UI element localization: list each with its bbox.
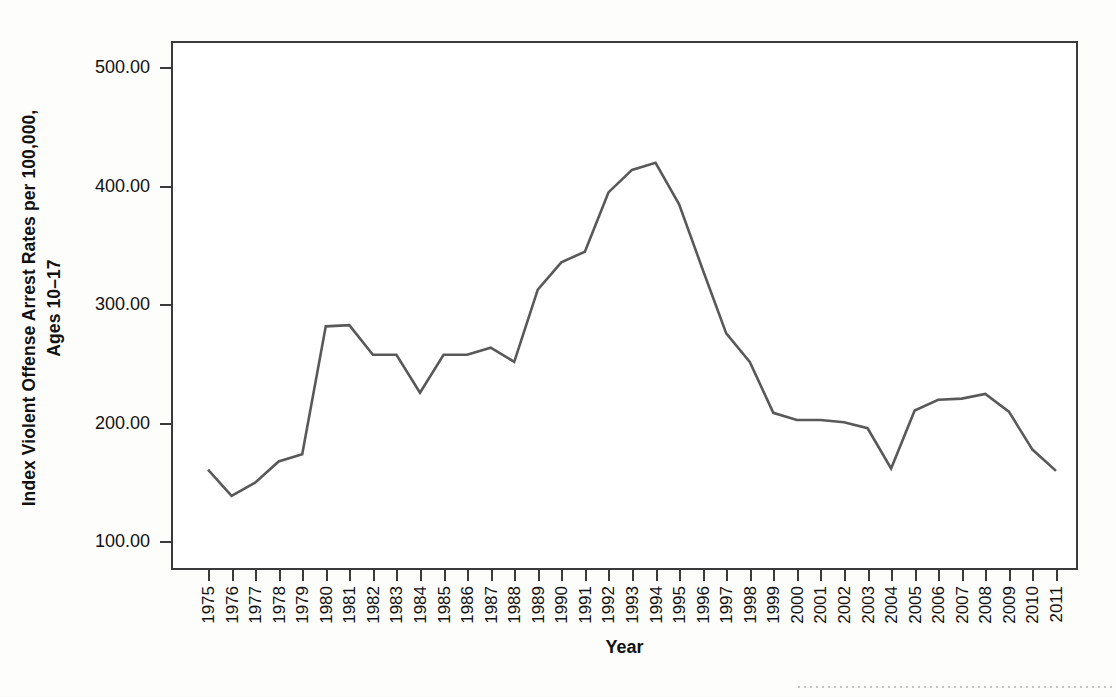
- x-axis-tick-label-text: 2011: [1048, 586, 1065, 623]
- x-axis-tick-label-text: 1985: [435, 586, 452, 624]
- x-axis-tick-label-text: 1990: [553, 586, 570, 624]
- x-axis-tick-mark: [326, 570, 328, 581]
- x-axis-tick-label-text: 1993: [624, 586, 641, 624]
- x-axis-tick-label-text: 1994: [647, 586, 664, 624]
- y-axis-tick-mark: [160, 67, 171, 69]
- x-axis-tick-mark: [538, 570, 540, 581]
- x-axis-tick-mark: [255, 570, 257, 581]
- x-axis-tick-label-text: 1978: [270, 586, 287, 624]
- y-axis-tick-label: 300.00: [95, 295, 160, 313]
- x-axis-tick-mark: [750, 570, 752, 581]
- x-axis-tick-mark: [985, 570, 987, 581]
- y-axis-title-line2: Ages 10–17: [42, 259, 67, 356]
- x-axis-tick-mark: [726, 570, 728, 581]
- x-axis-tick-label-text: 2003: [859, 586, 876, 624]
- y-axis-tick-mark: [160, 541, 171, 543]
- x-axis-tick-label-text: 2009: [1000, 586, 1017, 624]
- x-axis-tick-label-text: 1992: [600, 586, 617, 624]
- x-axis-tick-mark: [396, 570, 398, 581]
- x-axis-tick-label-text: 2001: [812, 586, 829, 624]
- x-axis-tick-label-text: 1995: [671, 586, 688, 624]
- y-axis-title: Index Violent Offense Arrest Rates per 1…: [14, 28, 70, 588]
- x-axis-tick-mark: [797, 570, 799, 581]
- x-axis-tick-mark: [703, 570, 705, 581]
- x-axis-tick-mark: [1009, 570, 1011, 581]
- x-axis-tick-mark: [302, 570, 304, 581]
- x-axis-tick-mark: [656, 570, 658, 581]
- x-axis-tick-mark: [585, 570, 587, 581]
- x-axis-title: Year: [171, 637, 1078, 658]
- x-axis-tick-label-text: 1991: [576, 586, 593, 624]
- x-axis-tick-mark: [349, 570, 351, 581]
- x-axis-tick-label-text: 2004: [883, 586, 900, 624]
- x-axis-tick-mark: [467, 570, 469, 581]
- x-axis-tick-mark: [938, 570, 940, 581]
- y-axis-tick-mark: [160, 186, 171, 188]
- x-axis-tick-label-text: 2005: [906, 586, 923, 624]
- x-axis-tick-mark: [1056, 570, 1058, 581]
- scan-artifact-dotted-line: [796, 686, 1116, 688]
- x-axis-tick-mark: [491, 570, 493, 581]
- x-axis-tick-mark: [632, 570, 634, 581]
- x-axis-tick-mark: [868, 570, 870, 581]
- x-axis-tick-mark: [608, 570, 610, 581]
- x-axis-tick-label-text: 1998: [741, 586, 758, 624]
- line-series-svg: [173, 43, 1076, 568]
- x-axis-tick-label-text: 1989: [529, 586, 546, 624]
- x-axis-tick-label-text: 1987: [482, 586, 499, 624]
- y-axis-tick-mark: [160, 423, 171, 425]
- y-axis-tick-label: 100.00: [95, 532, 160, 550]
- x-axis-tick-label-text: 1982: [364, 586, 381, 624]
- x-axis-tick-label-text: 2002: [836, 586, 853, 624]
- x-axis-tick-mark: [1032, 570, 1034, 581]
- x-axis-tick-mark: [962, 570, 964, 581]
- x-axis-tick-label-text: 1980: [317, 586, 334, 624]
- x-axis-tick-mark: [773, 570, 775, 581]
- x-axis-tick-mark: [420, 570, 422, 581]
- chart-page: Index Violent Offense Arrest Rates per 1…: [0, 0, 1116, 697]
- x-axis-tick-mark: [373, 570, 375, 581]
- x-axis-tick-label-text: 1996: [694, 586, 711, 624]
- x-axis-tick-label-text: 1999: [765, 586, 782, 624]
- x-axis-tick-mark: [208, 570, 210, 581]
- x-axis-tick-mark: [444, 570, 446, 581]
- x-axis-tick-label-text: 2008: [977, 586, 994, 624]
- data-line: [208, 163, 1056, 496]
- x-axis-tick-label-text: 1979: [294, 586, 311, 624]
- x-axis-tick-label-text: 1984: [412, 586, 429, 624]
- y-axis-tick-label: 500.00: [95, 58, 160, 76]
- x-axis-tick-mark: [844, 570, 846, 581]
- x-axis-tick-label-text: 1988: [506, 586, 523, 624]
- x-axis-tick-label-text: 1997: [718, 586, 735, 624]
- x-axis-tick-mark: [514, 570, 516, 581]
- x-axis-tick-mark: [679, 570, 681, 581]
- x-axis-tick-label-text: 2010: [1024, 586, 1041, 624]
- x-axis-tick-mark: [561, 570, 563, 581]
- x-axis-tick-label-text: 1977: [247, 586, 264, 624]
- x-axis-tick-mark: [279, 570, 281, 581]
- x-axis-tick-label-text: 1976: [223, 586, 240, 624]
- x-axis-tick-label-text: 2006: [930, 586, 947, 624]
- x-axis-tick-label-text: 1986: [459, 586, 476, 624]
- x-axis-tick-mark: [915, 570, 917, 581]
- y-axis-tick-label: 200.00: [95, 414, 160, 432]
- y-axis-title-line1: Index Violent Offense Arrest Rates per 1…: [17, 110, 42, 507]
- x-axis-tick-label-text: 1983: [388, 586, 405, 624]
- x-axis-tick-label-text: 2000: [788, 586, 805, 624]
- x-axis-tick-mark: [820, 570, 822, 581]
- y-axis-tick-mark: [160, 304, 171, 306]
- y-axis-tick-label: 400.00: [95, 177, 160, 195]
- x-axis-tick-label-text: 2007: [953, 586, 970, 624]
- x-axis-tick-mark: [891, 570, 893, 581]
- x-axis-tick-label-text: 1981: [341, 586, 358, 624]
- x-axis-tick-label-text: 1975: [200, 586, 217, 624]
- x-axis-tick-mark: [232, 570, 234, 581]
- plot-area: [171, 41, 1078, 570]
